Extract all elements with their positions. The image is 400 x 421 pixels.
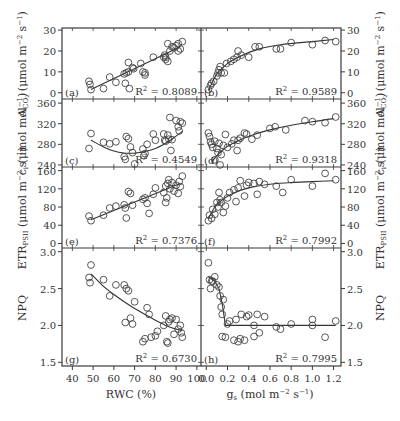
data-point [129, 321, 136, 328]
data-point [154, 328, 161, 335]
y-tick-label-right: 30 [347, 25, 360, 36]
y-tick-label-left: 120 [37, 184, 56, 195]
data-point [219, 311, 226, 318]
data-point [282, 126, 289, 133]
data-point [245, 312, 252, 319]
r2-annotation-a: R2 = 0.8089 [135, 85, 197, 97]
y-tick-label-right: 80 [347, 202, 360, 213]
data-point [175, 190, 182, 197]
y-title-npq-left: NPQ [16, 295, 29, 321]
data-point [277, 326, 284, 333]
data-point [279, 189, 286, 196]
fit-curve-g [91, 274, 182, 331]
data-point [288, 321, 295, 328]
data-point [332, 38, 339, 45]
data-point [123, 215, 130, 222]
r2-annotation-b: R2 = 0.9589 [275, 85, 337, 97]
x-tick-label: 0.0 [198, 373, 214, 384]
data-point [223, 60, 230, 67]
data-point [106, 74, 113, 81]
data-point [126, 85, 133, 92]
panel-label-h: (h) [204, 354, 218, 365]
y-tick-label-left: 3.0 [40, 247, 56, 258]
x-tick-label: 0.8 [283, 373, 299, 384]
panel-label-c: (c) [65, 155, 79, 166]
panel-label-g: (g) [65, 354, 79, 365]
y-tick-label-right: 320 [347, 119, 366, 130]
data-point [179, 173, 186, 180]
r2-annotation-e: R2 = 0.7376 [135, 234, 197, 246]
x-tick-label: 1.0 [304, 373, 320, 384]
data-point [218, 304, 225, 311]
y-tick-label-right: 3.0 [347, 247, 363, 258]
data-point [113, 282, 120, 289]
y-title-etr-right: ETRPSII (μmol m−2 s−1) [374, 147, 388, 269]
y-tick-label-left: 40 [43, 220, 56, 231]
x-tick-label: 0.2 [220, 373, 236, 384]
y-tick-label-left: 80 [43, 202, 56, 213]
data-point [322, 170, 329, 177]
y-tick-label-left: 0 [50, 88, 56, 99]
panel-frames [62, 28, 341, 366]
y-tick-label-left: 280 [37, 139, 56, 150]
y-tick-label-right: 40 [347, 220, 360, 231]
y-tick-label-left: 20 [43, 46, 56, 57]
data-point [163, 195, 170, 202]
data-point [233, 316, 240, 323]
data-point [125, 188, 132, 195]
data-point [160, 131, 167, 138]
data-point [106, 293, 113, 300]
data-point [100, 276, 107, 283]
data-point [100, 85, 107, 92]
data-point [309, 183, 316, 190]
data-point [254, 311, 261, 318]
data-point [277, 46, 284, 53]
data-point [243, 131, 250, 138]
data-point [146, 210, 153, 217]
y-tick-label-right: 120 [347, 184, 366, 195]
data-point [241, 337, 248, 344]
panel-label-d: (d) [204, 155, 218, 166]
data-point [288, 39, 295, 46]
data-point [222, 131, 229, 138]
data-point [322, 334, 329, 341]
y-tick-label-left: 360 [37, 98, 56, 109]
data-point [144, 141, 151, 148]
data-point [216, 189, 223, 196]
data-point [152, 185, 159, 192]
panel-label-e: (e) [65, 236, 79, 247]
data-point [113, 138, 120, 145]
data-point [332, 114, 339, 121]
y-tick-label-left: 2.0 [40, 320, 56, 331]
r2-annotation-d: R2 = 0.9318 [275, 153, 337, 165]
data-point [113, 79, 120, 86]
panel-label-f: (f) [204, 236, 216, 247]
panel-label-a: (a) [65, 87, 79, 98]
data-point [88, 262, 95, 269]
data-point [162, 199, 169, 206]
y-tick-label-left: 10 [43, 67, 56, 78]
data-point [86, 145, 93, 152]
data-point [152, 137, 159, 144]
y-tick-label-left: 160 [37, 166, 56, 177]
data-point [220, 209, 227, 216]
data-point [177, 183, 184, 190]
data-point [273, 324, 280, 331]
y-tick-label-right: 360 [347, 98, 366, 109]
data-point [144, 304, 151, 311]
data-point [148, 334, 155, 341]
y-tick-label-right: 10 [347, 67, 360, 78]
data-point [152, 332, 159, 339]
y-tick-label-right: 2.5 [347, 284, 363, 295]
x-title-rwc: RWC (%) [106, 388, 156, 401]
x-tick-label: 80 [149, 373, 162, 384]
data-point [167, 114, 174, 121]
r2-annotation-g: R2 = 0.6730 [135, 352, 197, 364]
y-tick-label-right: 160 [347, 166, 366, 177]
data-point [332, 318, 339, 325]
x-tick-label: 1.2 [326, 373, 342, 384]
data-point [261, 313, 268, 320]
y-title-npq-right: NPQ [374, 295, 387, 321]
data-point [256, 329, 263, 336]
data-point [237, 177, 244, 184]
